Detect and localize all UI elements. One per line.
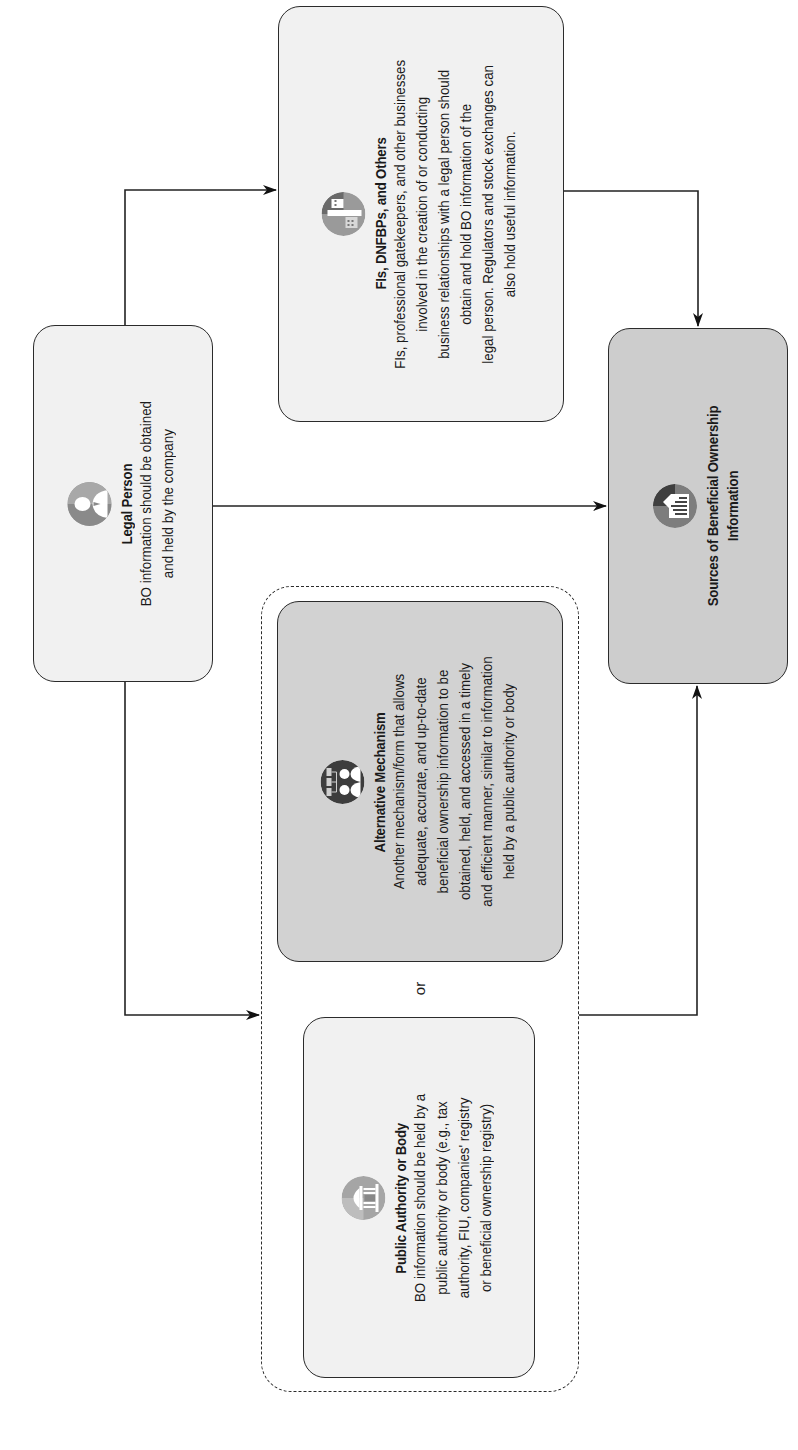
public-authority-title: Public Authority or Body (392, 1122, 409, 1273)
node-sources-bo: Sources of Beneficial Ownership Informat… (608, 328, 788, 684)
arrow-group-to-sources (579, 686, 697, 1015)
or-label: or (411, 982, 428, 995)
arrow-legal-to-group (125, 682, 259, 1015)
arrow-fis-to-sources (564, 191, 698, 326)
node-legal-person: Legal Person BO information should be ob… (33, 325, 213, 682)
fis-description: FIs, professional gatekeepers, and other… (389, 60, 521, 369)
alternative-title: Alternative Mechanism (371, 711, 388, 851)
legal-person-description: BO information should be obtained and he… (135, 401, 179, 606)
legal-person-title: Legal Person (118, 463, 135, 544)
government-building-icon (342, 1176, 386, 1220)
alternative-description: Another mechanism/form that allows adequ… (388, 656, 520, 906)
buildings-icon (322, 192, 366, 236)
document-chart-icon (653, 484, 697, 528)
node-alternative-mechanism: Alternative Mechanism Another mechanism/… (277, 601, 563, 962)
public-authority-description: BO information should be held by a publi… (409, 1093, 497, 1301)
sources-title: Sources of Beneficial Ownership Informat… (703, 406, 743, 607)
arrow-legal-to-fis (125, 190, 276, 325)
node-fis-dnfbps: FIs, DNFBPs, and Others FIs, professiona… (278, 6, 564, 422)
fis-title: FIs, DNFBPs, and Others (372, 138, 389, 290)
people-network-icon (321, 760, 365, 804)
node-public-authority: Public Authority or Body BO information … (303, 1017, 535, 1378)
person-icon (68, 482, 112, 526)
